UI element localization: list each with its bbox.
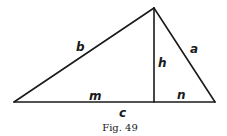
side-b [14, 8, 154, 102]
label-n: n [177, 88, 186, 102]
triangle-diagram: b a h m n c Fig. 49 [0, 0, 227, 136]
figure-caption: Fig. 49 [102, 122, 138, 133]
label-c: c [119, 106, 126, 120]
label-m: m [89, 89, 102, 103]
label-a: a [190, 42, 198, 56]
label-h: h [158, 56, 167, 70]
label-b: b [76, 40, 85, 54]
